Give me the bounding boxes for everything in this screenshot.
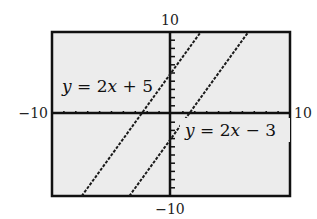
xmax-label: 10 xyxy=(294,105,312,121)
eq1-var-x: x xyxy=(107,76,117,96)
eq2-var-x: x xyxy=(230,120,240,140)
xmin-label: −10 xyxy=(18,105,48,121)
eq2-tail: − 3 xyxy=(240,120,276,140)
eq1-rest: = 2 xyxy=(72,76,108,96)
equation-label-2: y = 2x − 3 xyxy=(184,120,276,140)
ymax-label: 10 xyxy=(161,12,179,28)
eq1-tail: + 5 xyxy=(117,76,153,96)
eq2-var-y: y xyxy=(184,120,195,140)
eq2-rest: = 2 xyxy=(195,120,231,140)
equation-label-1: y = 2x + 5 xyxy=(61,76,153,96)
ymin-label: −10 xyxy=(155,201,185,217)
graphing-calculator-plot: 10 −10 −10 10 y = 2x + 5 y = 2x − 3 xyxy=(0,0,317,219)
eq1-var-y: y xyxy=(61,76,72,96)
